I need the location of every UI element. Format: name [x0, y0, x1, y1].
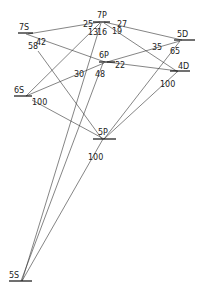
branching-ratio-label: 35 [152, 43, 162, 52]
level-label-6p: 6P [99, 51, 109, 60]
branching-ratio-label: 100 [32, 98, 47, 107]
level-label-7s: 7S [19, 23, 29, 32]
level-label-5d: 5D [177, 30, 188, 39]
level-label-5s: 5S [9, 271, 19, 280]
branching-ratio-label: 22 [115, 61, 125, 70]
branching-ratio-label: 65 [170, 47, 180, 56]
branching-ratio-label: 100 [88, 153, 103, 162]
branching-ratio-label: 100 [160, 80, 175, 89]
transition-7p-5s [22, 23, 101, 281]
branching-ratio-label: 16 [97, 28, 107, 37]
branching-ratio-label: 58 [28, 42, 38, 51]
transition-5d-5p [104, 41, 180, 139]
level-label-5p: 5P [98, 128, 108, 137]
transition-lines [21, 22, 182, 281]
branching-ratio-label: 19 [112, 27, 122, 36]
level-label-6s: 6S [14, 86, 24, 95]
grotrian-diagram: 2513162719425830482235651001001007S7P5D6… [0, 0, 200, 290]
level-label-4d: 4D [178, 62, 189, 71]
transition-7s-5p [38, 51, 102, 139]
level-label-7p: 7P [97, 11, 107, 20]
branching-ratio-label: 48 [95, 70, 105, 79]
branching-ratio-label: 30 [74, 70, 84, 79]
transition-6p-5s [21, 63, 103, 281]
